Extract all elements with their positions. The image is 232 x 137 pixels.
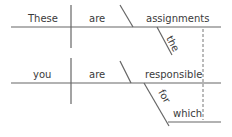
word-complement-2: responsible — [145, 69, 202, 80]
complement-slant-2 — [120, 61, 131, 83]
word-object-which: which — [173, 108, 202, 119]
complement-slant-1 — [120, 5, 133, 27]
word-subject-1: These — [27, 13, 58, 24]
word-subject-2: you — [33, 69, 51, 80]
word-verb-1: are — [89, 13, 105, 24]
word-complement-1: assignments — [146, 13, 209, 24]
word-verb-2: are — [89, 69, 105, 80]
word-modifier-the: the — [164, 34, 181, 54]
sentence-diagram: These are assignments the you are respon… — [0, 0, 232, 137]
word-preposition-for: for — [156, 88, 173, 106]
